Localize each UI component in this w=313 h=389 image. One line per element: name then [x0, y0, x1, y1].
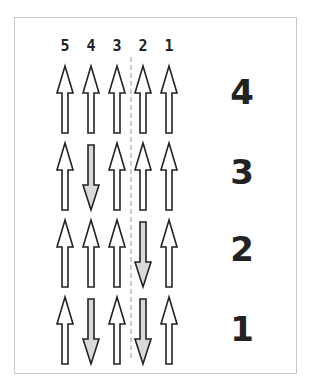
arrow-up-icon: [57, 66, 73, 133]
arrow-down-icon: [135, 299, 151, 364]
arrow-up-icon: [109, 297, 125, 364]
arrow-up-icon: [161, 143, 177, 210]
arrow-up-icon: [83, 220, 99, 287]
arrow-up-icon: [161, 66, 177, 133]
arrow-down-icon: [135, 222, 151, 287]
arrow-grid: [0, 0, 313, 389]
arrow-up-icon: [83, 66, 99, 133]
arrow-up-icon: [109, 220, 125, 287]
arrow-up-icon: [57, 220, 73, 287]
arrow-up-icon: [135, 143, 151, 210]
arrow-up-icon: [161, 220, 177, 287]
arrow-up-icon: [161, 297, 177, 364]
arrow-up-icon: [57, 297, 73, 364]
arrow-up-icon: [135, 66, 151, 133]
arrow-up-icon: [109, 143, 125, 210]
arrow-down-icon: [83, 145, 99, 210]
arrow-up-icon: [57, 143, 73, 210]
arrow-up-icon: [109, 66, 125, 133]
arrow-down-icon: [83, 299, 99, 364]
